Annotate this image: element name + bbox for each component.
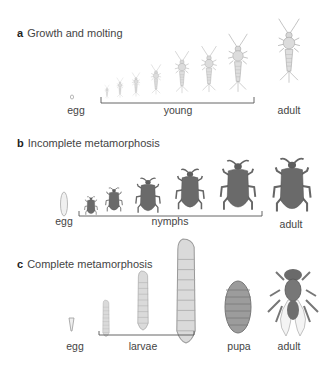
panel-c-pupa-icon — [225, 281, 251, 333]
panel-a-young-bracket — [101, 97, 254, 103]
metamorphosis-illustrations — [0, 0, 331, 367]
panel-a-adult-icon — [278, 19, 300, 83]
panel-b-nymphs-bracket — [79, 211, 262, 216]
panel-b-egg-icon — [61, 192, 68, 216]
panel-a-egg-icon — [70, 95, 73, 99]
panel-b-adult-icon — [273, 159, 310, 212]
panel-c-egg-icon — [69, 318, 74, 331]
panel-c-adult-icon — [268, 269, 318, 336]
